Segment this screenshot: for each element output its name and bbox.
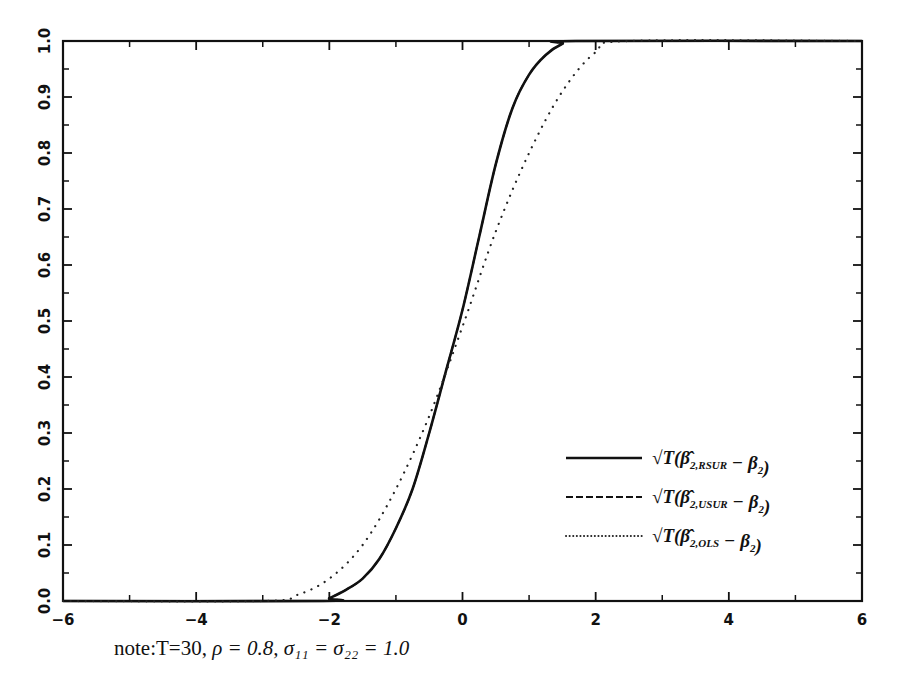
legend-label: √T(β̂2,RSUR − β2) (652, 447, 770, 479)
cdf-chart: −6−4−20246 0.00.10.20.30.40.50.60.70.80.… (0, 0, 898, 683)
x-axis-ticks (63, 41, 862, 601)
y-tick-label: 0.6 (36, 252, 54, 279)
y-tick-label: 0.2 (36, 476, 54, 503)
y-tick-label: 0.3 (36, 420, 54, 447)
series-lines (63, 40, 862, 601)
legend-label: √T(β̂2,OLS − β2) (652, 525, 762, 557)
y-tick-label: 0.1 (36, 532, 54, 559)
note-sample-size: T=30, (156, 636, 212, 660)
x-tick-label: 2 (590, 611, 600, 629)
legend-item-dashed: √T(β̂2,USUR − β2) (566, 486, 770, 518)
x-tick-label: −2 (318, 611, 341, 629)
legend-label: √T(β̂2,USUR − β2) (652, 486, 770, 518)
legend-item-dotted: √T(β̂2,OLS − β2) (566, 525, 762, 557)
note-rho: ρ = 0.8, (212, 636, 284, 660)
note-label: note: (114, 636, 156, 660)
x-tick-label: −6 (51, 611, 74, 629)
y-axis-tick-labels: 0.00.10.20.30.40.50.60.70.80.91.0 (36, 28, 54, 615)
legend-item-solid: √T(β̂2,RSUR − β2) (566, 447, 770, 479)
note-sigma: σ₁₁ = σ₂₂ = 1.0 (284, 636, 410, 660)
y-tick-label: 0.4 (36, 364, 54, 391)
x-tick-label: −4 (185, 611, 208, 629)
y-tick-label: 0.9 (36, 84, 54, 111)
x-axis-tick-labels: −6−4−20246 (51, 611, 867, 629)
y-tick-label: 0.7 (36, 196, 54, 223)
legend: √T(β̂2,RSUR − β2)√T(β̂2,USUR − β2)√T(β̂2… (566, 447, 770, 557)
y-tick-label: 0.0 (36, 588, 54, 615)
y-tick-label: 0.5 (36, 308, 54, 335)
x-tick-label: 6 (857, 611, 867, 629)
chart-note: note:T=30, ρ = 0.8, σ₁₁ = σ₂₂ = 1.0 (114, 636, 409, 661)
y-axis-ticks (63, 41, 862, 601)
plot-frame (63, 41, 862, 601)
x-tick-label: 0 (457, 611, 467, 629)
y-tick-label: 0.8 (36, 140, 54, 167)
x-tick-label: 4 (724, 611, 734, 629)
series-dashed-line (63, 41, 862, 601)
series-solid-line (63, 41, 862, 601)
y-tick-label: 1.0 (36, 28, 54, 55)
series-dotted-line (63, 40, 862, 601)
